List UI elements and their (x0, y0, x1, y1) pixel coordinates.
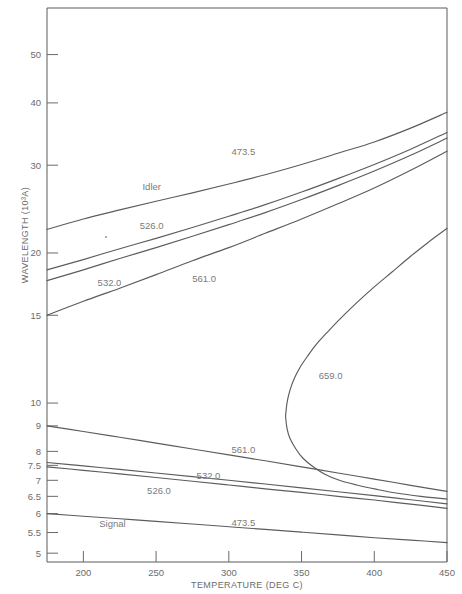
curve-label-561-0: 561.0 (232, 444, 256, 455)
curve-idler-659.0-lower (286, 416, 447, 499)
y-tick-label: 5 (36, 548, 41, 559)
x-tick-label: 350 (294, 567, 310, 578)
curve-idler-659.0-upper (286, 228, 447, 416)
curve-label-473-5: 473.5 (232, 517, 256, 528)
x-tick-label: 250 (148, 567, 164, 578)
y-tick-label: 50 (30, 49, 41, 60)
x-axis-title: TEMPERATURE (DEG C) (191, 580, 303, 590)
data-curves (47, 112, 447, 542)
x-axis-ticks: 200250300350400450 (75, 551, 454, 578)
y-axis-title: WAVELENGTH (10³A) (20, 187, 30, 283)
curve-label-473-5: 473.5 (232, 146, 256, 157)
curve-label-Signal: Signal (99, 518, 125, 529)
y-tick-label: 7.5 (28, 460, 41, 471)
x-tick-label: 300 (221, 567, 237, 578)
y-tick-label: 8 (36, 446, 41, 457)
y-axis-ticks: 55.566.577.589101520304050 (28, 49, 58, 559)
curve-label-Idler: Idler (142, 181, 160, 192)
y-tick-label: 6 (36, 508, 41, 519)
curve-label-659-0: 659.0 (319, 370, 343, 381)
y-tick-label: 40 (30, 97, 41, 108)
y-tick-label: 9 (36, 420, 41, 431)
y-tick-label: 7 (36, 475, 41, 486)
curve-label-532-0: 532.0 (98, 277, 122, 288)
y-tick-label: 20 (30, 247, 41, 258)
stray-speck (105, 236, 107, 238)
y-tick-label: 30 (30, 160, 41, 171)
y-tick-label: 5.5 (28, 527, 41, 538)
y-tick-label: 6.5 (28, 491, 41, 502)
curve-idler-473.5 (47, 112, 447, 229)
curve-label-561-0: 561.0 (192, 273, 216, 284)
curve-idler-561.0 (47, 151, 447, 315)
curve-signal-532.0 (47, 463, 447, 504)
y-tick-label: 10 (30, 397, 41, 408)
curve-signal-561.0 (47, 426, 447, 492)
x-tick-label: 400 (366, 567, 382, 578)
x-tick-label: 450 (439, 567, 455, 578)
wavelength-temperature-plot: 55.566.577.589101520304050 2002503003504… (0, 0, 462, 594)
curve-label-526-0: 526.0 (147, 485, 171, 496)
curve-label-526-0: 526.0 (140, 220, 164, 231)
curve-label-532-0: 532.0 (197, 470, 221, 481)
curve-signal-526.0 (47, 467, 447, 509)
x-tick-label: 200 (75, 567, 91, 578)
chart-figure: 55.566.577.589101520304050 2002503003504… (0, 0, 462, 594)
y-tick-label: 15 (30, 310, 41, 321)
